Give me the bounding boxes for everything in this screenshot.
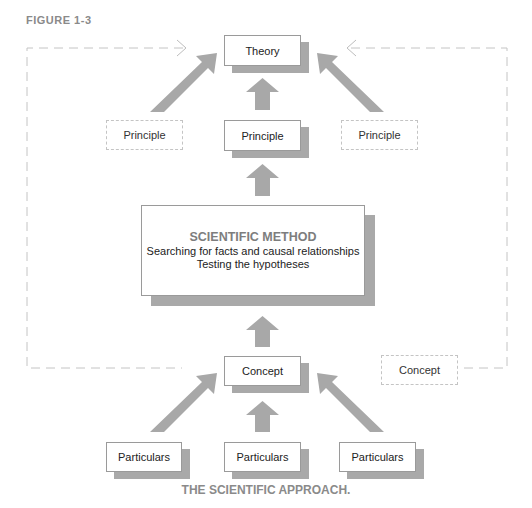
arrow-up-concept-to-method-icon [246, 316, 279, 347]
arrow-diag-left-to-concept-icon [150, 373, 217, 432]
particulars-right-node: Particulars [339, 442, 416, 472]
arrow-diag-right-to-concept-icon [317, 373, 384, 432]
scientific-method-line2: Testing the hypotheses [197, 258, 310, 271]
principle-center-node: Principle [224, 120, 301, 151]
concept-center-node: Concept [224, 356, 301, 386]
dashed-loop-right [351, 48, 507, 368]
particulars-center-node: Particulars [224, 442, 301, 472]
arrow-up-principle-to-theory-icon [246, 78, 279, 110]
principle-right-node: Principle [341, 120, 418, 150]
arrow-up-particulars-to-concept-icon [246, 401, 279, 432]
scientific-method-title: SCIENTIFIC METHOD [189, 230, 316, 244]
arrow-diag-left-to-theory-icon [150, 53, 217, 112]
scientific-method-line1: Searching for facts and causal relations… [147, 245, 360, 258]
theory-node: Theory [224, 35, 301, 66]
figure-caption: THE SCIENTIFIC APPROACH. [0, 483, 532, 497]
particulars-left-node: Particulars [106, 442, 182, 472]
concept-right-node: Concept [381, 355, 458, 385]
arrow-diag-right-to-theory-icon [317, 53, 384, 112]
principle-left-node: Principle [106, 120, 183, 150]
arrow-up-method-to-principle-icon [246, 164, 279, 196]
scientific-method-node: SCIENTIFIC METHOD Searching for facts an… [141, 205, 365, 296]
